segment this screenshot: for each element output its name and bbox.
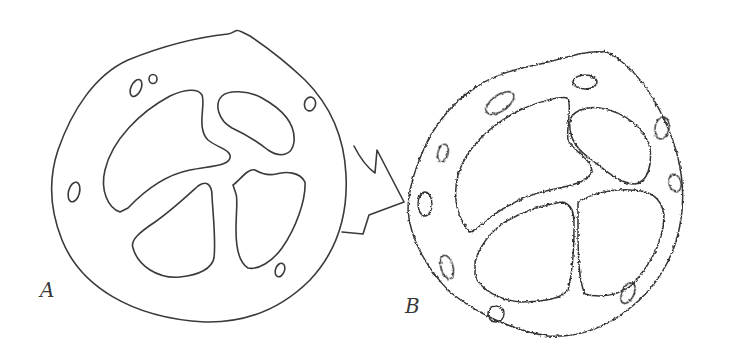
diagram-canvas [0, 0, 734, 361]
panel-a-pore [273, 262, 286, 278]
panel-a-pore [66, 181, 82, 203]
zigzag-arrow-icon [342, 146, 404, 234]
panel-a-outer-boundary [52, 30, 347, 322]
panel-b-pore [438, 254, 456, 280]
panel-b-pore [573, 75, 597, 89]
panel-b-label: B [405, 294, 420, 318]
panel-b [408, 51, 683, 336]
panel-b-pore [436, 143, 450, 163]
panel-b-lobe-lower-right [578, 190, 664, 296]
panel-b-outer-boundary [408, 51, 683, 336]
panel-a-lobe-lower-left [132, 183, 214, 277]
panel-a-lobe-lower-right [233, 170, 305, 269]
panel-b-lobe-upper-right [570, 108, 651, 184]
panel-a [52, 30, 347, 322]
panel-a-label: A [40, 278, 54, 302]
panel-a-pore [149, 75, 157, 84]
panel-a-lobe-upper-right [218, 92, 294, 155]
panel-a-pore [303, 96, 317, 112]
panel-b-pore [418, 192, 432, 216]
panel-b-pore [618, 280, 638, 305]
panel-a-pore [128, 78, 145, 99]
